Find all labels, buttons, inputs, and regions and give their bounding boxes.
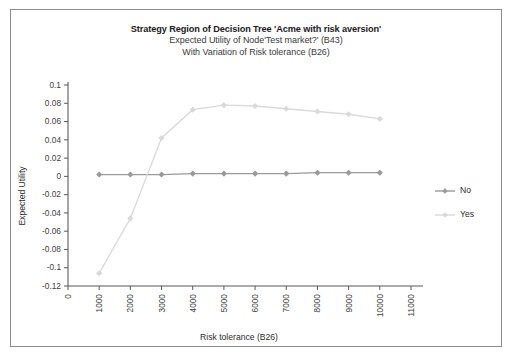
x-tick-label: 7000 [281,294,291,313]
series-line-no [99,173,380,175]
y-tick-label: -0.08 [42,244,61,254]
y-tick-label: 0.04 [45,135,62,145]
y-tick-label: -0.06 [42,226,61,236]
data-point-marker [222,171,227,176]
y-tick-label: -0.02 [42,189,61,199]
x-tick-label: 8000 [312,294,322,313]
data-point-marker [253,104,258,109]
data-point-marker [128,172,133,177]
y-axis-ticks: 0.10.080.060.040.020-0.02-0.04-0.06-0.08… [42,80,68,291]
data-point-marker [315,170,320,175]
y-axis-title: Expected Utility [17,166,27,226]
x-tick-label: 1000 [94,294,104,313]
data-point-marker [222,103,227,108]
legend-item-yes[interactable]: Yes [460,209,474,219]
data-point-marker [378,117,383,122]
y-tick-label: 0.1 [49,80,61,90]
y-tick-label: 0.02 [45,153,62,163]
legend-marker [443,213,448,218]
x-tick-label: 4000 [188,294,198,313]
y-tick-label: 0 [56,171,61,181]
x-tick-label: 3000 [157,294,167,313]
x-tick-label: 10000 [375,294,385,317]
series-line-yes [99,105,380,273]
data-point-marker [190,171,195,176]
chart-svg: 0.10.080.060.040.020-0.02-0.04-0.06-0.08… [11,10,503,348]
y-tick-label: -0.12 [42,281,61,291]
chart-container: Strategy Region of Decision Tree 'Acme w… [10,9,502,347]
x-tick-label: 6000 [250,294,260,313]
x-axis-ticks: 0100020003000400050006000700080009000100… [63,286,416,317]
y-tick-label: -0.1 [47,262,62,272]
x-tick-label: 0 [63,294,73,299]
plot-area: 0.10.080.060.040.020-0.02-0.04-0.06-0.08… [11,10,503,348]
data-point-marker [346,170,351,175]
data-point-marker [315,109,320,114]
data-point-marker [97,172,102,177]
x-axis-title: Risk tolerance (B26) [200,332,278,342]
x-tick-label: 5000 [219,294,229,313]
data-point-marker [346,112,351,117]
x-tick-label: 9000 [344,294,354,313]
data-point-marker [253,171,258,176]
data-point-marker [159,172,164,177]
data-point-marker [378,170,383,175]
x-tick-label: 11000 [406,294,416,317]
y-tick-label: -0.04 [42,208,61,218]
data-point-marker [284,171,289,176]
legend-item-no[interactable]: No [460,185,471,195]
legend-marker [443,189,448,194]
data-point-marker [284,106,289,111]
data-series-layer [97,103,382,276]
x-tick-label: 2000 [125,294,135,313]
y-tick-label: 0.06 [45,116,62,126]
y-tick-label: 0.08 [45,98,62,108]
chart-legend: NoYes [435,185,474,219]
